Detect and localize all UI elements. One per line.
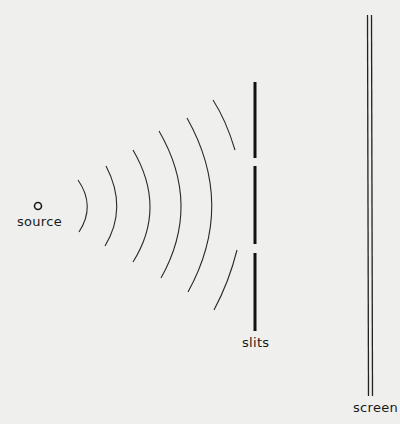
wavefronts [78,100,237,310]
wavefront-2 [105,166,117,246]
diagram-canvas [0,0,400,424]
wavefront-6-upper [213,100,235,150]
source-label: source [17,214,62,229]
slits-label: slits [242,335,269,350]
screen-label: screen [353,400,398,415]
screen-lines [368,15,373,396]
source-point-icon [35,203,42,210]
wavefront-5 [187,118,212,292]
wavefront-1 [78,180,87,232]
wavefront-3 [133,150,150,262]
wavefront-4 [159,131,181,278]
wavefront-6-lower [214,250,237,310]
